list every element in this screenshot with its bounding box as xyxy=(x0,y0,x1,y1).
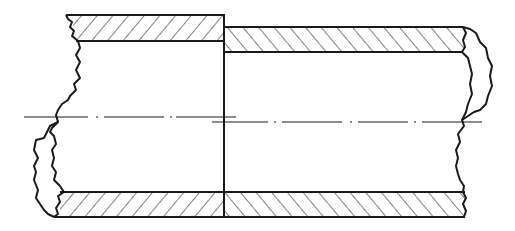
pipe-section-drawing xyxy=(0,0,515,231)
right-top-wall xyxy=(224,27,466,52)
right-bottom-wall xyxy=(224,192,466,217)
left-top-wall xyxy=(66,15,224,41)
left-break-line-inner xyxy=(50,15,80,217)
left-bottom-wall xyxy=(54,192,224,217)
